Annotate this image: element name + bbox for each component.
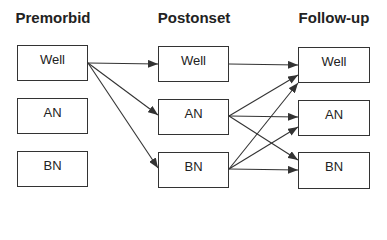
- node-premorbid-well: Well: [17, 45, 88, 81]
- node-followup-well: Well: [298, 47, 370, 83]
- node-label: BN: [184, 159, 202, 187]
- node-premorbid-an: AN: [17, 98, 88, 134]
- arrow-premorbid-well-to-postonset-bn: [88, 63, 158, 168]
- arrow-postonset-an-to-followup-an: [229, 116, 298, 117]
- node-label: BN: [43, 158, 61, 186]
- node-label: Well: [181, 53, 206, 81]
- node-label: AN: [43, 105, 61, 133]
- node-label: AN: [325, 107, 343, 135]
- node-followup-an: AN: [298, 100, 370, 136]
- arrow-postonset-well-to-followup-well: [229, 64, 298, 65]
- arrow-premorbid-well-to-postonset-well: [88, 63, 158, 64]
- node-postonset-well: Well: [158, 46, 229, 82]
- node-label: AN: [184, 106, 202, 134]
- arrow-postonset-bn-to-followup-an: [229, 127, 298, 169]
- arrow-postonset-an-to-followup-bn: [229, 116, 298, 160]
- node-followup-bn: BN: [298, 152, 370, 189]
- node-postonset-an: AN: [158, 99, 229, 135]
- node-premorbid-bn: BN: [17, 151, 88, 187]
- node-label: Well: [40, 52, 65, 80]
- arrow-premorbid-well-to-postonset-an: [88, 63, 158, 115]
- node-label: Well: [321, 54, 346, 82]
- node-postonset-bn: BN: [158, 152, 229, 188]
- arrow-postonset-bn-to-followup-bn: [229, 169, 298, 170]
- node-label: BN: [325, 159, 343, 188]
